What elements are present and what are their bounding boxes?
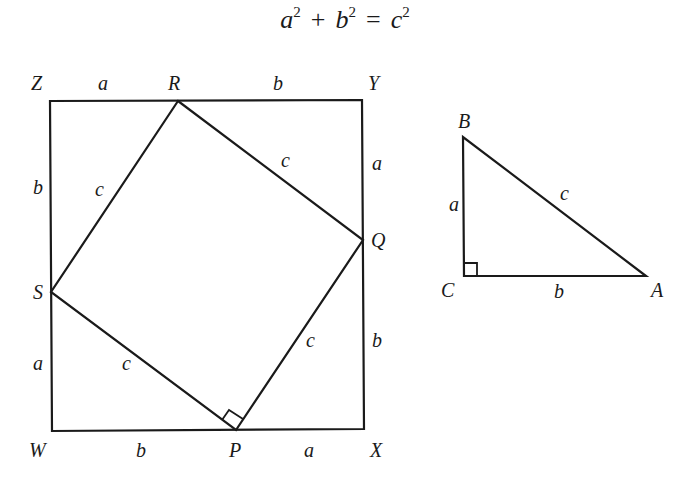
side-label-ry: b	[273, 72, 283, 94]
side-label-ca: b	[554, 280, 564, 302]
vertex-label-c: C	[441, 279, 455, 301]
outer-square-wxyz	[50, 100, 364, 431]
side-label-sr: c	[95, 178, 104, 200]
vertex-label-y: Y	[368, 72, 381, 94]
side-label-ab: c	[560, 182, 569, 204]
right-triangle-abc	[463, 137, 646, 276]
vertex-label-w: W	[29, 439, 48, 461]
side-label-zs: b	[33, 176, 43, 198]
geometry-diagram: Z R Y Q S W P X a b a b b a b a c c c c …	[0, 0, 690, 485]
side-label-zr: a	[98, 72, 108, 94]
vertex-label-s: S	[33, 281, 43, 303]
inner-square-pqrs	[51, 101, 363, 430]
side-label-qx: b	[372, 329, 382, 351]
side-label-yq: a	[372, 152, 382, 174]
right-angle-marker-p	[222, 410, 243, 420]
vertex-label-p: P	[228, 439, 241, 461]
side-label-rq: c	[281, 149, 290, 171]
vertex-label-r: R	[167, 72, 180, 94]
right-angle-marker-c	[464, 263, 477, 276]
vertex-label-a: A	[649, 279, 664, 301]
side-label-pq: c	[306, 329, 315, 351]
side-label-sw: a	[33, 352, 43, 374]
side-label-sp: c	[122, 352, 131, 374]
vertex-label-x: X	[369, 439, 383, 461]
side-label-px: a	[304, 439, 314, 461]
vertex-label-b: B	[458, 110, 470, 132]
vertex-label-q: Q	[371, 229, 386, 251]
side-label-wp: b	[136, 439, 146, 461]
vertex-label-z: Z	[31, 72, 43, 94]
side-label-bc: a	[449, 193, 459, 215]
